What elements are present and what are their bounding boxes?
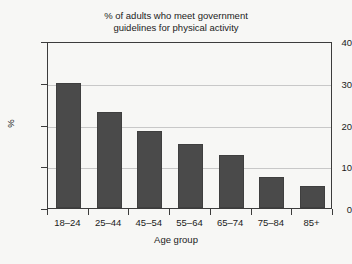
x-axis-tick-label: 18–24 [54, 217, 80, 228]
bar [137, 131, 162, 208]
bar [219, 155, 244, 208]
bar-chart-figure: % of adults who meet government guidelin… [0, 0, 352, 264]
x-axis-tick-mark [291, 209, 292, 215]
bar [97, 112, 122, 208]
y-axis-title: % [5, 119, 16, 127]
x-axis-tick-label: 25–44 [95, 217, 121, 228]
gridline [48, 85, 331, 86]
x-axis-tick-mark [210, 209, 211, 215]
x-axis-tick-mark [251, 209, 252, 215]
x-axis-tick-mark [47, 209, 48, 215]
x-axis-tick-mark [332, 209, 333, 215]
x-axis-tick-mark [88, 209, 89, 215]
x-axis-title: Age group [0, 234, 352, 245]
bar [56, 83, 81, 208]
bar [178, 144, 203, 208]
chart-title: % of adults who meet government guidelin… [0, 10, 352, 34]
x-axis-tick-mark [128, 209, 129, 215]
x-axis-tick-label: 85+ [304, 217, 320, 228]
gridline [48, 127, 331, 128]
x-axis-tick-label: 55–64 [176, 217, 202, 228]
plot-area [47, 42, 332, 209]
x-axis-tick-label: 65–74 [217, 217, 243, 228]
x-axis-tick-label: 45–54 [136, 217, 162, 228]
bar [259, 177, 284, 208]
bar [300, 186, 325, 209]
x-axis-tick-mark [169, 209, 170, 215]
x-axis-tick-label: 75–84 [258, 217, 284, 228]
plot-inner [48, 43, 331, 208]
